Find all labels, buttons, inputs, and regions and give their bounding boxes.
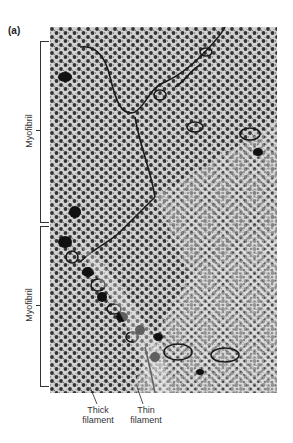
thick-filament-line2: filament	[73, 415, 123, 425]
thin-filament-line2: filament	[121, 415, 171, 425]
thick-filament-line1: Thick	[73, 405, 123, 415]
thin-filament-label: Thin filament	[121, 405, 171, 425]
annotation-pointers	[0, 0, 293, 443]
thick-filament-label: Thick filament	[73, 405, 123, 425]
thin-filament-line1: Thin	[121, 405, 171, 415]
